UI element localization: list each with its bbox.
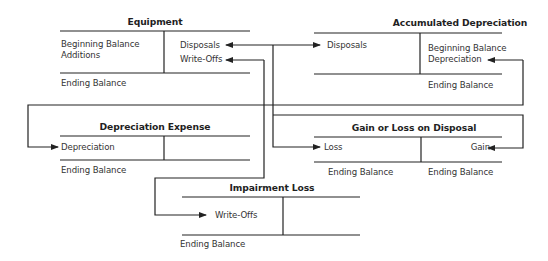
equipment-ending-balance: Ending Balance xyxy=(61,78,126,89)
gain-loss-loss: Loss xyxy=(324,142,342,153)
equipment-additions: Additions xyxy=(61,50,100,61)
accumulated-depreciation-beginning-balance: Beginning Balance xyxy=(428,43,507,54)
equipment-disposals: Disposals xyxy=(180,40,220,51)
impairment-loss-t-account xyxy=(182,197,360,235)
impairment-loss-title: Impairment Loss xyxy=(230,182,315,193)
depreciation-expense-ending-balance: Ending Balance xyxy=(61,165,126,176)
gain-loss-ending-balance-debit: Ending Balance xyxy=(328,167,393,178)
impairment-loss-ending-balance: Ending Balance xyxy=(180,239,245,250)
equipment-title: Equipment xyxy=(128,16,183,27)
accumulated-depreciation-depreciation: Depreciation xyxy=(428,54,482,65)
impairment-loss-write-offs: Write-Offs xyxy=(215,210,257,221)
equipment-write-offs: Write-Offs xyxy=(180,54,222,65)
accumulated-depreciation-disposals: Disposals xyxy=(327,40,367,51)
depreciation-expense-depreciation: Depreciation xyxy=(61,142,115,153)
gain-loss-title: Gain or Loss on Disposal xyxy=(352,122,477,133)
accumulated-depreciation-ending-balance: Ending Balance xyxy=(428,80,493,91)
gain-loss-gain: Gain xyxy=(471,142,490,153)
equipment-beginning-balance: Beginning Balance xyxy=(61,39,140,50)
depreciation-expense-title: Depreciation Expense xyxy=(100,121,211,132)
accumulated-depreciation-title: Accumulated Depreciation xyxy=(393,17,527,28)
gain-loss-ending-balance-credit: Ending Balance xyxy=(428,167,493,178)
